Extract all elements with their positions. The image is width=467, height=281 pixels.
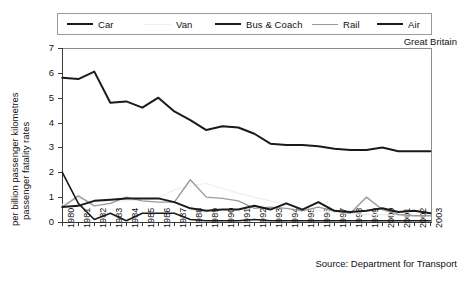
series-line-air [62, 172, 430, 220]
plot-series-layer [0, 0, 467, 281]
chart-page: CarVanBus & CoachRailAir Great Britain p… [0, 0, 467, 281]
series-line-car [62, 72, 430, 152]
source-note: Source: Department for Transport [315, 258, 457, 269]
